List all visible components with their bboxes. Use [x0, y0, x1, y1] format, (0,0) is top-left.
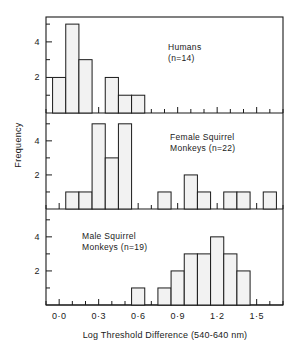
histogram-bar — [118, 95, 131, 113]
panel-caption-male-squirrel-monkeys: Male Squirrel Monkeys (n=19) — [82, 231, 147, 253]
histogram-bar — [224, 192, 237, 209]
histogram-bar — [184, 175, 197, 209]
histogram-bar — [197, 192, 210, 209]
x-axis-tick-label: 0·6 — [131, 311, 146, 321]
histogram-bar — [66, 192, 79, 209]
histogram-bar — [263, 192, 276, 209]
y-axis-tick-label: 2 — [22, 266, 40, 276]
histogram-bar — [92, 124, 105, 209]
panel-caption-humans: Humans (n=14) — [168, 42, 201, 64]
histogram-bar — [197, 254, 210, 305]
x-axis-tick-label: 1·5 — [249, 311, 264, 321]
y-axis-tick-label: 4 — [22, 232, 40, 242]
y-axis-tick-label: 4 — [22, 37, 40, 47]
histogram-bar — [105, 77, 118, 113]
x-axis-tick-label: 0·0 — [52, 311, 67, 321]
histogram-bar — [224, 254, 237, 305]
histogram-bar — [53, 77, 66, 113]
histogram-bar — [79, 192, 92, 209]
histogram-bar — [79, 60, 92, 113]
panel-caption-female-squirrel-monkeys: Female Squirrel Monkeys (n=22) — [170, 132, 235, 154]
histogram-bar — [158, 288, 171, 305]
histogram-bar — [118, 124, 131, 209]
histogram-bar — [66, 24, 79, 113]
histogram-bar — [211, 237, 224, 305]
histogram-figure: Frequency Log Threshold Difference (540-… — [0, 0, 308, 356]
x-axis-tick-label: 0·3 — [91, 311, 106, 321]
histogram-bar — [237, 271, 250, 305]
y-axis-tick-label: 2 — [22, 170, 40, 180]
histogram-bar — [132, 95, 145, 113]
histogram-bar — [171, 271, 184, 305]
histogram-bar — [158, 192, 171, 209]
x-axis-tick-label: 0·9 — [170, 311, 185, 321]
y-axis-tick-label: 2 — [22, 72, 40, 82]
histogram-bar — [184, 254, 197, 305]
x-axis-tick-label: 1·2 — [210, 311, 225, 321]
histogram-bar — [132, 288, 145, 305]
histogram-bar — [105, 158, 118, 209]
y-axis-tick-label: 4 — [22, 136, 40, 146]
histogram-bar — [237, 192, 250, 209]
plot-area — [0, 0, 308, 356]
x-axis-title: Log Threshold Difference (540-640 nm) — [46, 330, 284, 340]
